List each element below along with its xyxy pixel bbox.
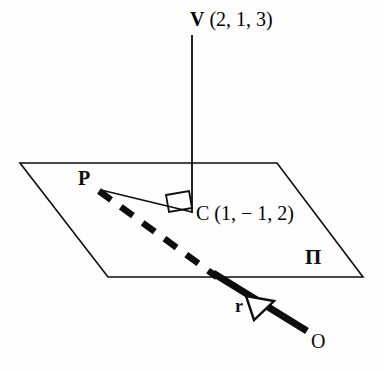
geometry-figure: V (2, 1, 3) C (1, − 1, 2) P Π r O [0, 0, 384, 371]
label-vertex-c-coords: (1, − 1, 2) [214, 202, 294, 225]
diagram-canvas [0, 0, 384, 371]
label-point-o: O [311, 331, 325, 351]
label-vertex-c: C (1, − 1, 2) [196, 202, 294, 225]
label-vertex-v: V (2, 1, 3) [190, 8, 273, 31]
label-vertex-v-coords: (2, 1, 3) [209, 8, 272, 31]
label-vertex-p: P [78, 168, 90, 188]
label-vertex-c-name: C [196, 202, 209, 225]
label-plane-pi: Π [305, 247, 321, 268]
label-vertex-v-name: V [190, 8, 204, 31]
label-line-r: r [235, 297, 243, 315]
